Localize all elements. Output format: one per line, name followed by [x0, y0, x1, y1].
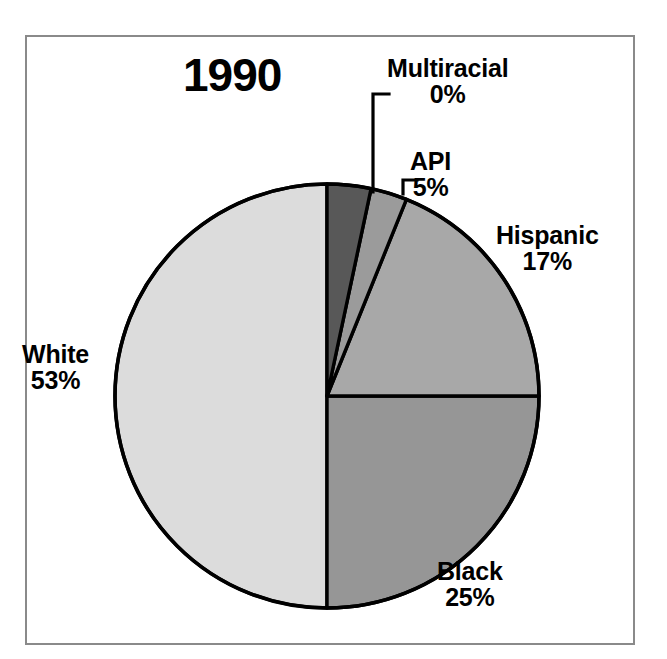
- pie-chart-figure: 1990 Multiracial 0% API 5% Hispanic 17% …: [0, 0, 667, 659]
- slice-label-api-percent: 5%: [410, 174, 451, 200]
- slice-label-black-name: Black: [437, 558, 503, 584]
- slice-label-api-name: API: [410, 148, 451, 174]
- slice-label-black-percent: 25%: [437, 584, 503, 610]
- slice-label-white-name: White: [22, 341, 89, 367]
- slice-label-multiracial-name: Multiracial: [387, 55, 508, 81]
- slice-label-multiracial: Multiracial 0%: [387, 55, 508, 107]
- pie-slice-black[interactable]: [327, 396, 539, 608]
- pie-slice-white[interactable]: [115, 184, 327, 608]
- leader-line-multiracial: [373, 94, 389, 192]
- slice-label-white: White 53%: [22, 341, 89, 393]
- slice-label-multiracial-percent: 0%: [387, 81, 508, 107]
- slice-label-api: API 5%: [410, 148, 451, 200]
- slice-label-hispanic-name: Hispanic: [496, 222, 599, 248]
- slice-label-hispanic: Hispanic 17%: [496, 222, 599, 274]
- chart-year-title: 1990: [183, 48, 281, 102]
- pie-chart-graphic: [0, 0, 667, 659]
- slice-label-white-percent: 53%: [22, 367, 89, 393]
- slice-label-black: Black 25%: [437, 558, 503, 610]
- slice-label-hispanic-percent: 17%: [496, 248, 599, 274]
